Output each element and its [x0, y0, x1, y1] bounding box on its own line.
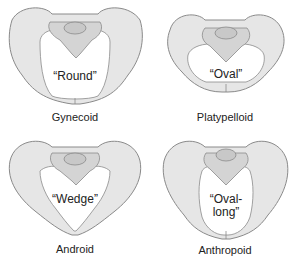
- shape-label: “Oval”: [196, 68, 256, 81]
- shape-label-line2: long”: [206, 206, 246, 219]
- panel-gynecoid: “Round” Gynecoid: [0, 0, 150, 131]
- panel-anthropoid: “Oval- long” Anthropoid: [150, 131, 300, 262]
- caption-platypelloid: Platypelloid: [150, 111, 300, 123]
- panel-platypelloid: “Oval” Platypelloid: [150, 0, 300, 131]
- panel-android: “Wedge” Android: [0, 131, 150, 262]
- caption-anthropoid: Anthropoid: [150, 244, 300, 256]
- shape-label: “Round”: [45, 70, 105, 83]
- shape-label: “Oval- long”: [206, 193, 246, 219]
- shape-label: “Wedge”: [45, 193, 105, 206]
- caption-android: Android: [0, 243, 150, 255]
- caption-gynecoid: Gynecoid: [0, 111, 150, 123]
